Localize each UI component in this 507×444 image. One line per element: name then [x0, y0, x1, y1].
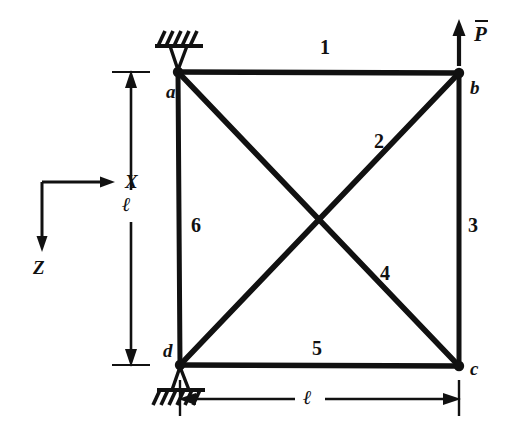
dimension-label-vertical: ℓ [122, 194, 131, 214]
axis-label-x: X [125, 172, 138, 191]
load-label-P: P [474, 24, 487, 45]
node-label-b: b [470, 78, 480, 97]
dimension-label-horizontal: ℓ [303, 387, 312, 407]
member-1-top-chord [178, 72, 459, 73]
coordinate-axes [37, 177, 116, 253]
node-label-c: c [470, 359, 478, 378]
member-5-bottom-chord [180, 365, 459, 366]
member-label-6: 6 [191, 215, 201, 235]
axis-label-z: Z [33, 258, 45, 277]
dimension-vertical [112, 70, 150, 367]
member-6-left-chord [178, 72, 180, 365]
member-label-1: 1 [320, 37, 330, 57]
load-symbol-overbar: P [474, 24, 487, 45]
truss-members [178, 72, 459, 366]
member-label-3: 3 [468, 215, 478, 235]
truss-diagram [0, 0, 507, 444]
support-pin-a [155, 31, 203, 70]
dimension-horizontal [178, 380, 461, 416]
joint-b [454, 68, 464, 78]
joint-c [454, 361, 464, 371]
node-label-d: d [163, 341, 173, 360]
member-label-4: 4 [380, 263, 390, 283]
node-label-a: a [166, 82, 176, 101]
member-label-5: 5 [312, 338, 322, 358]
load-arrow-P [453, 19, 466, 66]
member-label-2: 2 [374, 131, 384, 151]
